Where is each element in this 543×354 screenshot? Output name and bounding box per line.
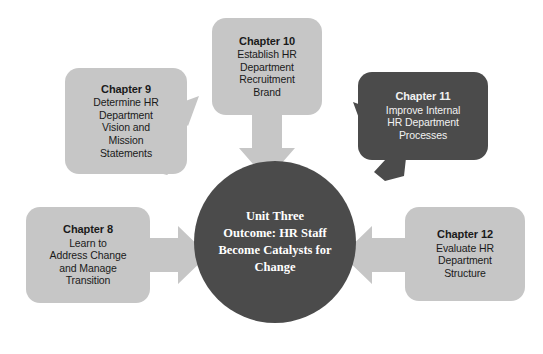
chapter-node-line: Structure bbox=[444, 267, 486, 280]
center-outcome-text: Unit Three Outcome: HR Staff Become Cata… bbox=[200, 208, 350, 276]
chapter-node-line: Processes bbox=[399, 129, 447, 142]
chapter-node-ch9: Chapter 9 Determine HR Department Vision… bbox=[65, 68, 187, 174]
center-text-line: Become Catalysts for bbox=[200, 242, 350, 259]
center-text-line: Unit Three bbox=[200, 208, 350, 225]
chapter-node-ch11: Chapter 11 Improve Internal HR Departmen… bbox=[358, 72, 488, 160]
chapter-node-title: Chapter 10 bbox=[239, 35, 295, 48]
chapter-node-line: Mission bbox=[109, 134, 144, 147]
chapter-node-ch10: Chapter 10 Establish HR Department Recru… bbox=[212, 18, 322, 115]
chapter-node-line: Evaluate HR bbox=[436, 242, 494, 255]
chapter-node-line: Vision and bbox=[102, 121, 150, 134]
chapter-node-line: Address Change bbox=[50, 249, 127, 262]
chapter-node-line: Department bbox=[240, 61, 294, 74]
chapter-node-line: Establish HR bbox=[237, 48, 297, 61]
chapter-node-title: Chapter 8 bbox=[63, 223, 113, 236]
chapter-node-line: Recruitment bbox=[239, 73, 295, 86]
unit-three-outcome-diagram: Unit Three Outcome: HR Staff Become Cata… bbox=[0, 0, 543, 354]
chapter-node-line: Transition bbox=[66, 274, 111, 287]
chapter-node-title: Chapter 9 bbox=[101, 83, 151, 96]
chapter-node-ch12: Chapter 12 Evaluate HR Department Struct… bbox=[405, 207, 525, 301]
chapter-node-ch8: Chapter 8 Learn to Address Change and Ma… bbox=[26, 207, 150, 303]
center-text-line: Change bbox=[200, 259, 350, 276]
chapter-node-line: Statements bbox=[100, 147, 152, 160]
chapter-node-line: HR Department bbox=[387, 116, 459, 129]
chapter-node-title: Chapter 12 bbox=[437, 228, 493, 241]
chapter-node-line: Department bbox=[438, 254, 492, 267]
chapter-node-line: Brand bbox=[253, 86, 281, 99]
center-outcome-circle: Unit Three Outcome: HR Staff Become Cata… bbox=[194, 161, 356, 323]
chapter-node-line: Department bbox=[99, 109, 153, 122]
chapter-node-line: Learn to bbox=[69, 237, 107, 250]
chapter-node-line: and Manage bbox=[59, 262, 116, 275]
chapter-node-title: Chapter 11 bbox=[395, 90, 450, 103]
chapter-node-line: Improve Internal bbox=[386, 104, 460, 117]
center-text-line: Outcome: HR Staff bbox=[200, 225, 350, 242]
chapter-node-line: Determine HR bbox=[93, 96, 158, 109]
